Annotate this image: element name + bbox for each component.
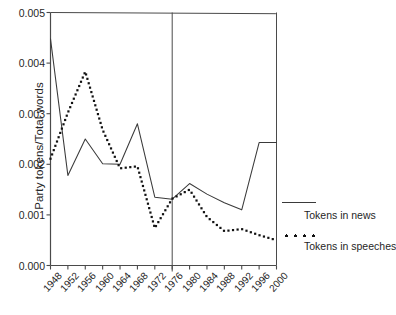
series-dot [134, 166, 136, 168]
series-dot [82, 76, 84, 78]
series-dot [162, 213, 164, 215]
series-dot [209, 218, 211, 220]
series-dot [101, 126, 103, 128]
series-dot [64, 119, 66, 121]
solid-line-swatch-icon [282, 202, 316, 207]
series-dot [67, 110, 69, 112]
dotted-line-swatch-icon [282, 233, 316, 237]
series-dot [102, 131, 104, 133]
series-dot [104, 135, 106, 137]
series-dot [61, 128, 63, 130]
series-line-tokens-in-news [51, 39, 277, 210]
series-dot [76, 89, 78, 91]
series-dot [58, 136, 60, 138]
series-dot [193, 196, 195, 198]
series-dot [114, 156, 116, 158]
series-dot [88, 82, 90, 84]
series-dot [90, 91, 92, 93]
series-dot [263, 235, 265, 237]
series-dot [97, 113, 99, 115]
series-dot [250, 231, 252, 233]
series-dot [245, 230, 247, 232]
series-dot [152, 220, 154, 222]
series-dot [254, 233, 256, 235]
series-dot [203, 211, 205, 213]
series-dot [232, 229, 234, 231]
series-dot [149, 211, 151, 213]
legend-label-news: Tokens in news [304, 209, 376, 221]
series-dot [141, 180, 143, 182]
series-dot [212, 221, 214, 223]
series-dot [49, 158, 51, 160]
series-dot [169, 201, 171, 203]
series-dot [62, 123, 64, 125]
series-dot [143, 189, 145, 191]
series-dot [73, 98, 75, 100]
series-dot [94, 104, 96, 106]
series-dot [125, 167, 127, 169]
series-dot [160, 217, 162, 219]
series-dot [96, 109, 98, 111]
series-dot [78, 85, 80, 87]
legend-label-speeches: Tokens in speeches [304, 240, 396, 252]
series-dot [223, 230, 225, 232]
series-dot [200, 207, 202, 209]
series-dot [148, 207, 150, 209]
series-dot [157, 221, 159, 223]
series-dot [272, 238, 274, 240]
series-dot [171, 197, 173, 199]
series-dot [93, 100, 95, 102]
series-dot [69, 106, 71, 108]
series-dot [146, 198, 148, 200]
series-dot [85, 73, 87, 75]
series-dot [188, 189, 190, 191]
series-dot [195, 199, 197, 201]
series-dot [75, 93, 77, 95]
series-dot [216, 224, 218, 226]
series-dot [66, 115, 68, 117]
series-dot [54, 145, 56, 147]
series-dot [151, 216, 153, 218]
series-dot [86, 78, 88, 80]
series-dot [120, 167, 122, 169]
series-dot [258, 234, 260, 236]
series-dot [53, 149, 55, 151]
series-dot [89, 87, 91, 89]
series-dot [144, 194, 146, 196]
series-dot [59, 132, 61, 134]
series-dot [190, 192, 192, 194]
series-dot [129, 166, 131, 168]
series-dot [184, 191, 186, 193]
series-dot [147, 203, 149, 205]
series-dot [110, 147, 112, 149]
series-dot [116, 160, 118, 162]
series-dot [99, 122, 101, 124]
series-dot [139, 176, 141, 178]
series-dot [138, 172, 140, 174]
series-dot [137, 167, 139, 169]
series-dot [56, 140, 58, 142]
series-dot [164, 209, 166, 211]
series-dot [167, 205, 169, 207]
series-dot [219, 227, 221, 229]
series-dot [71, 102, 73, 104]
legend-item-tokens-in-news: Tokens in news [282, 196, 394, 227]
series-dot [108, 143, 110, 145]
series-dot [176, 195, 178, 197]
series-dot [227, 230, 229, 232]
chart-legend: Tokens in news Tokens in speeches [282, 196, 394, 258]
top-border [51, 13, 276, 14]
series-dot [198, 203, 200, 205]
series-dot [142, 185, 144, 187]
series-dot [180, 193, 182, 195]
series-dot [205, 215, 207, 217]
series-dots-tokens-in-speeches [49, 72, 273, 240]
series-dot [237, 228, 239, 230]
series-dot [112, 152, 114, 154]
series-dot [118, 164, 120, 166]
series-dot [241, 228, 243, 230]
legend-item-tokens-in-speeches: Tokens in speeches [282, 227, 394, 258]
series-dot [98, 117, 100, 119]
